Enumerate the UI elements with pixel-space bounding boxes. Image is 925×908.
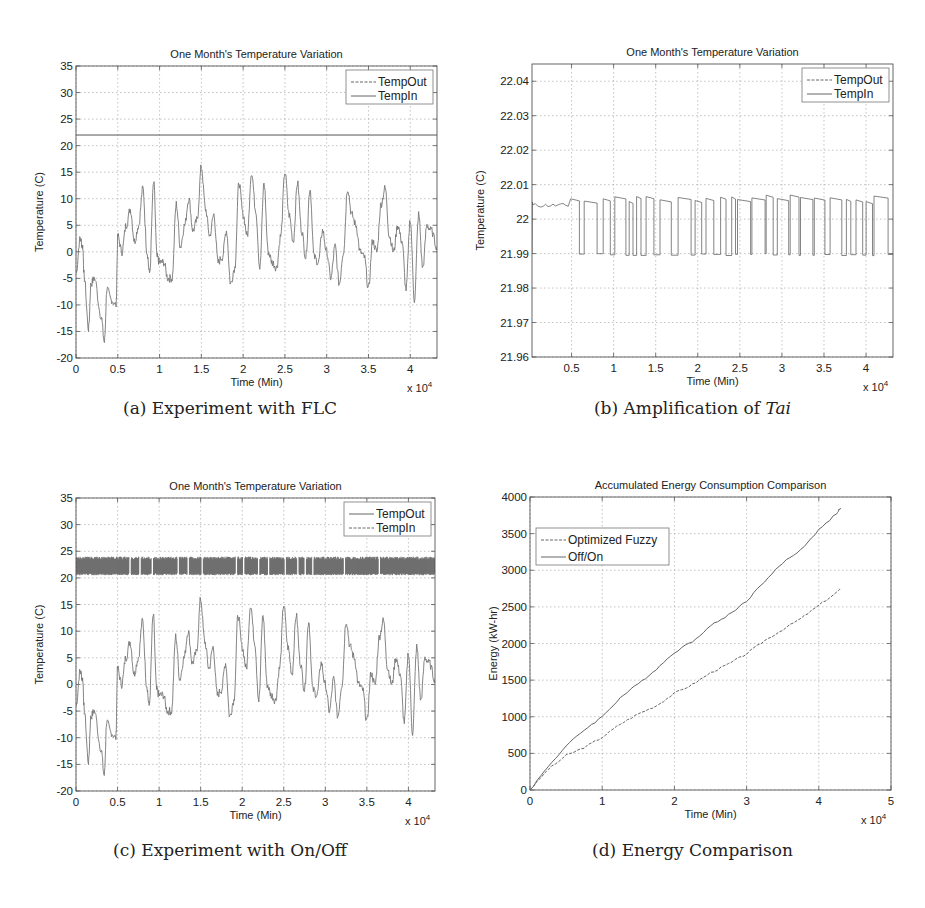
y-tick-label: 1000 <box>501 711 527 723</box>
y-tick-label: -10 <box>56 732 73 744</box>
y-tick-label: 1500 <box>501 674 527 686</box>
y-axis-label: Energy (kW-hr) <box>487 606 499 680</box>
y-tick-label: -5 <box>63 705 73 717</box>
x-tick-label: 1 <box>156 363 162 375</box>
x-tick-label: 1 <box>156 796 162 808</box>
chart-title: One Month's Temperature Variation <box>170 48 342 60</box>
x-axis-label: Time (Min) <box>686 375 738 387</box>
y-tick-label: 35 <box>60 492 73 504</box>
y-tick-label: 20 <box>60 140 73 152</box>
x-tick-label: 2 <box>240 363 246 375</box>
chart-a: One Month's Temperature Variation-20-15-… <box>0 0 460 440</box>
legend-entry: Off/On <box>568 550 603 564</box>
series-tempout <box>76 165 437 343</box>
x-tick-label: 0 <box>527 795 533 807</box>
y-tick-label: 22 <box>516 213 529 225</box>
y-tick-label: 35 <box>60 60 73 72</box>
x-tick-label: 0.5 <box>110 796 126 808</box>
x-multiplier: x 104 <box>405 813 431 827</box>
x-tick-label: 5 <box>888 795 894 807</box>
legend: Optimized FuzzyOff/On <box>536 528 669 565</box>
x-tick-label: 2.5 <box>276 796 292 808</box>
chart-title: One Month's Temperature Variation <box>169 480 341 492</box>
x-tick-label: 3.5 <box>360 363 376 375</box>
x-tick-label: 1.5 <box>193 363 209 375</box>
plot-area: One Month's Temperature Variation-20-15-… <box>33 48 437 394</box>
plot-area: One Month's Temperature Variation-20-15-… <box>33 480 435 827</box>
y-tick-label: 15 <box>60 599 73 611</box>
y-tick-label: 2000 <box>501 638 527 650</box>
y-tick-label: 22.02 <box>500 144 529 156</box>
chart-b: One Month's Temperature Variation21.9621… <box>460 0 925 440</box>
series-group <box>76 135 437 343</box>
figure-b: One Month's Temperature Variation21.9621… <box>460 0 925 440</box>
y-tick-label: 5 <box>67 219 73 231</box>
x-tick-label: 0 <box>73 363 79 375</box>
legend-entry: TempIn <box>378 89 417 103</box>
x-tick-label: 0.5 <box>110 363 126 375</box>
x-tick-label: 3.5 <box>816 362 832 374</box>
y-tick-label: 21.99 <box>500 248 529 260</box>
x-axis-label: Time (Min) <box>229 809 281 821</box>
series-group <box>76 557 435 776</box>
y-tick-label: 3000 <box>501 564 527 576</box>
legend-entry: TempOut <box>376 507 425 521</box>
x-tick-label: 4 <box>816 795 823 807</box>
x-tick-label: 3 <box>779 362 785 374</box>
caption-b: (b) Amplification of Tai <box>460 398 925 418</box>
grid <box>532 64 893 357</box>
legend: TempOutTempIn <box>344 502 431 536</box>
x-tick-label: 0 <box>73 796 79 808</box>
y-tick-label: 22.01 <box>500 179 529 191</box>
x-axis-label: Time (Min) <box>684 808 736 820</box>
y-tick-label: 25 <box>60 545 73 557</box>
y-tick-label: -20 <box>56 785 73 797</box>
y-tick-label: 500 <box>508 747 527 759</box>
chart-title: Accumulated Energy Consumption Compariso… <box>595 479 827 491</box>
y-tick-label: 30 <box>60 87 73 99</box>
x-tick-label: 2 <box>671 795 677 807</box>
x-tick-label: 3.5 <box>359 796 375 808</box>
series-optimized-fuzzy <box>530 589 841 790</box>
y-axis-label: Temperature (C) <box>474 170 486 250</box>
x-axis-label: Time (Min) <box>230 376 282 388</box>
y-tick-label: 21.97 <box>500 317 529 329</box>
y-tick-label: 10 <box>60 193 73 205</box>
legend-entry: TempOut <box>834 73 883 87</box>
y-tick-label: 20 <box>60 572 73 584</box>
x-tick-label: 3 <box>323 363 329 375</box>
x-tick-label: 1 <box>599 795 605 807</box>
x-tick-label: 0.5 <box>564 362 580 374</box>
figure-a: One Month's Temperature Variation-20-15-… <box>0 0 460 440</box>
x-multiplier: x 104 <box>407 380 433 394</box>
y-tick-label: -10 <box>56 299 73 311</box>
y-tick-label: 21.98 <box>500 282 529 294</box>
x-tick-label: 1.5 <box>648 362 664 374</box>
caption-a: (a) Experiment with FLC <box>0 398 460 418</box>
caption-c: (c) Experiment with On/Off <box>0 840 460 860</box>
y-tick-label: 30 <box>60 519 73 531</box>
figure-d: Accumulated Energy Consumption Compariso… <box>460 450 925 908</box>
x-tick-label: 1.5 <box>193 796 209 808</box>
y-tick-label: 0 <box>67 246 73 258</box>
legend-entry: TempIn <box>834 87 873 101</box>
caption-b-symbol: Tai <box>765 398 791 418</box>
y-tick-label: 5 <box>67 652 73 664</box>
x-tick-label: 4 <box>863 362 870 374</box>
legend-entry: TempIn <box>376 521 415 535</box>
series-tempin <box>76 557 435 576</box>
y-tick-label: 15 <box>60 166 73 178</box>
axes-box <box>532 64 893 357</box>
y-tick-label: 0 <box>67 678 73 690</box>
x-tick-label: 2.5 <box>277 363 293 375</box>
series-tempout <box>76 597 435 775</box>
legend: TempOutTempIn <box>802 68 889 102</box>
y-tick-label: -15 <box>56 325 73 337</box>
y-axis-label: Temperature (C) <box>33 172 45 252</box>
x-tick-label: 3 <box>743 795 749 807</box>
x-multiplier: x 104 <box>861 812 887 826</box>
x-tick-label: 2 <box>239 796 245 808</box>
x-tick-label: 4 <box>405 796 412 808</box>
x-multiplier: x 104 <box>863 379 889 393</box>
caption-d: (d) Energy Comparison <box>460 840 925 860</box>
